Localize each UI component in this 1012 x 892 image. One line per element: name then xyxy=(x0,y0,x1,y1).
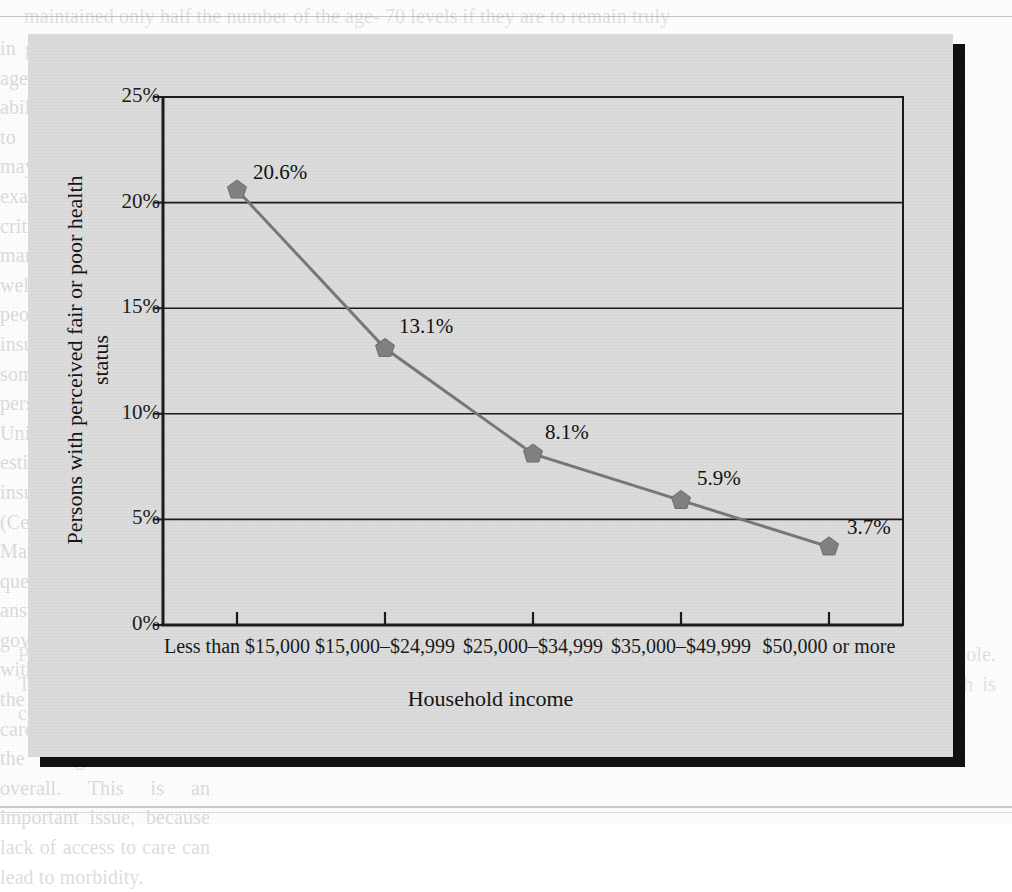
chart-figure-panel: 0%5%10%15%20%25% Persons with perceived … xyxy=(28,34,953,757)
y-tick-label: 15% xyxy=(122,294,161,319)
data-markers xyxy=(227,180,838,555)
x-tick-label: $15,000–$24,999 xyxy=(307,635,463,658)
data-point-label: 8.1% xyxy=(545,420,589,445)
data-point-label: 3.7% xyxy=(847,515,891,540)
scan-line-bottom-1 xyxy=(0,806,1012,808)
y-tick-label: 10% xyxy=(122,400,161,425)
y-axis-title: Persons with perceived fair or poor heal… xyxy=(62,170,114,550)
x-tick-label: $35,000–$49,999 xyxy=(603,635,759,658)
data-point-marker xyxy=(671,490,690,508)
data-point-marker xyxy=(819,537,838,555)
x-tick-label: $25,000–$34,999 xyxy=(455,635,611,658)
x-axis-title: Household income xyxy=(28,686,953,712)
y-tick-label: 20% xyxy=(122,189,161,214)
data-line xyxy=(237,190,829,547)
data-point-label: 13.1% xyxy=(399,314,453,339)
data-point-label: 5.9% xyxy=(697,466,741,491)
y-tick-label: 5% xyxy=(132,505,160,530)
scan-line-top xyxy=(0,16,1012,17)
y-tick-label: 25% xyxy=(122,83,161,108)
gridlines xyxy=(163,203,903,520)
data-point-marker xyxy=(523,444,542,462)
x-tick-label: Less than $15,000 xyxy=(159,635,315,658)
x-tick-label: $50,000 or more xyxy=(751,635,907,658)
scan-line-bottom-2 xyxy=(0,812,1012,813)
data-point-marker xyxy=(227,180,246,198)
y-tick-label: 0% xyxy=(132,611,160,636)
data-point-label: 20.6% xyxy=(253,160,307,185)
